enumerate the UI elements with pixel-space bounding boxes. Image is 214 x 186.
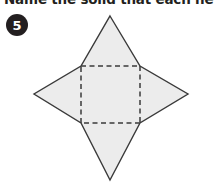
- net-diagram-svg: [0, 0, 214, 186]
- square-pyramid-net-figure: [0, 0, 214, 186]
- net-outline-shape: [34, 16, 188, 180]
- worksheet-page: Name the solid that each net for 5: [0, 0, 214, 186]
